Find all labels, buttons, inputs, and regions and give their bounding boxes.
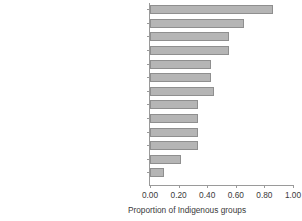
x-axis-tick xyxy=(207,185,208,188)
bar xyxy=(150,87,214,96)
bar-chart: Livelihood programsRestore/revitalize in… xyxy=(0,0,302,221)
bar-row: Livelihood programs xyxy=(150,3,293,17)
bar-row: Forest restoration projects xyxy=(150,139,293,153)
bar-row: Skills program xyxy=(150,153,293,167)
x-axis-title: Proportion of Indigenous groups xyxy=(0,205,302,215)
bar xyxy=(150,114,198,123)
bar xyxy=(150,32,229,41)
x-axis-line xyxy=(149,185,293,186)
bar xyxy=(150,100,198,109)
bar-row: Account of Indigenous knowledge xyxy=(150,57,293,71)
bar xyxy=(150,168,164,177)
x-axis-tick xyxy=(264,185,265,188)
bar-row: Infrastructure projects xyxy=(150,44,293,58)
plot-area: Livelihood programsRestore/revitalize in… xyxy=(150,3,293,185)
x-axis-tick xyxy=(236,185,237,188)
bar-row: Means to create income with investors xyxy=(150,112,293,126)
bar xyxy=(150,128,198,137)
x-axis-tick-label: 1.00 xyxy=(273,190,302,200)
bar xyxy=(150,141,198,150)
x-axis-tick xyxy=(179,185,180,188)
bar-row: Education/literacy programs xyxy=(150,30,293,44)
bar-row: Health programs xyxy=(150,71,293,85)
x-axis-title-text: Proportion of Indigenous groups xyxy=(128,205,246,215)
bar-row: Forest guard engagement projects xyxy=(150,85,293,99)
x-axis-tick xyxy=(150,185,151,188)
bar-row: Women and youth programs xyxy=(150,98,293,112)
bar-row: Restore/revitalize indigenous culture xyxy=(150,17,293,31)
bar xyxy=(150,73,211,82)
bar-row: Biodiversity conservation programs xyxy=(150,125,293,139)
bar xyxy=(150,19,244,28)
bar xyxy=(150,5,273,14)
bar xyxy=(150,46,229,55)
bar-row: Others xyxy=(150,166,293,180)
x-axis-tick xyxy=(293,185,294,188)
bar xyxy=(150,155,181,164)
bar xyxy=(150,60,211,69)
